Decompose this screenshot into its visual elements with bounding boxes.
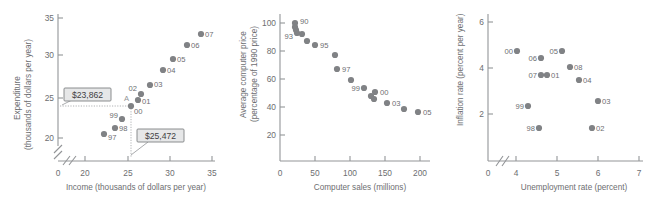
data-point-98 [112, 125, 118, 131]
data-point-label-01-p3: 01 [551, 71, 559, 80]
data-point-label-05-p3: 05 [550, 47, 558, 56]
x-tick-label-7-panel-3: 7 [637, 168, 642, 178]
data-point-label-03: 03 [154, 80, 162, 89]
x-tick-label-20-panel-1: 20 [80, 168, 90, 178]
data-point-label-90-p2: 90 [300, 17, 308, 26]
data-point-96 [332, 52, 338, 58]
data-point-label-99-p2: 99 [352, 84, 360, 93]
data-point-label-04: 04 [167, 66, 175, 75]
x-tick-label-0-panel-1: 0 [56, 168, 61, 178]
data-point-labels-panel-2: 90 93 95 97 99 00 03 05 [285, 17, 432, 117]
x-tick-label-50-panel-2: 50 [310, 168, 320, 178]
data-point-label-06: 06 [191, 41, 199, 50]
x-tick-label-25-panel-1: 25 [123, 168, 133, 178]
x-tick-label-4-panel-3: 4 [514, 168, 519, 178]
data-point-99 [119, 116, 125, 122]
data-point-97-p2 [334, 66, 340, 72]
data-point-03-p2 [384, 100, 390, 106]
callout-leader-income [131, 142, 148, 155]
data-point-03 [147, 82, 153, 88]
x-tick-label-35-panel-1: 35 [207, 168, 217, 178]
panel-inflation-vs-unemployment: Inflation rate (percent per year) 6 4 2 … [434, 0, 647, 199]
data-point-00-p3 [514, 48, 520, 54]
x-tick-label-100-panel-2: 100 [343, 168, 357, 178]
data-point-00b [372, 89, 378, 95]
y-tick-label-4-panel-3: 4 [479, 63, 484, 73]
data-point-04-p3 [576, 77, 582, 83]
y-tick-label-6-panel-3: 6 [479, 17, 484, 27]
data-point-label-06-p3: 06 [529, 54, 537, 63]
data-point-label-01: 01 [142, 97, 150, 106]
data-point-04 [160, 67, 166, 73]
data-point-label-08-p3: 08 [574, 63, 582, 72]
data-point-04-p2 [401, 106, 407, 112]
data-point-labels-panel-3: 00 05 06 08 07 01 04 03 99 98 02 [505, 47, 611, 133]
data-point-95 [312, 42, 318, 48]
data-point-label-04-p3: 04 [583, 76, 591, 85]
data-point-label-07-p3: 07 [529, 71, 537, 80]
panel-expenditure-vs-income: Expenditure (thousands of dollars per ye… [0, 0, 222, 199]
data-point-05-p3 [559, 48, 565, 54]
data-point-label-98-p3: 98 [527, 124, 535, 133]
y-axis-title-panel-2-line2: (percentage of 1990 price) [250, 26, 259, 122]
x-tick-label-0-panel-3: 0 [486, 168, 491, 178]
data-point-05-p2 [415, 109, 421, 115]
data-point-01 [135, 97, 141, 103]
x-axis-title-panel-1: Income (thousands of dollars per year) [66, 183, 206, 192]
data-points-panel-3 [514, 48, 601, 131]
data-point-06 [184, 42, 190, 48]
panel-2-plot: Average computer price (percentage of 19… [222, 0, 434, 199]
data-point-98-p2 [348, 77, 354, 83]
y-tick-label-40-panel-2: 40 [267, 102, 277, 112]
data-point-label-95-p2: 95 [320, 41, 328, 50]
y-axis-title-panel-1: Expenditure [13, 76, 22, 120]
x-tick-label-0-panel-2: 0 [278, 168, 283, 178]
data-point-label-02-p3: 02 [596, 124, 604, 133]
data-point-label-00: 00 [134, 107, 142, 116]
data-point-00-p2 [371, 96, 377, 102]
data-point-label-05-p2: 05 [423, 108, 431, 117]
data-point-label-07: 07 [205, 30, 213, 39]
x-axis-title-panel-2: Computer sales (millions) [314, 183, 407, 192]
x-tick-label-200-panel-2: 200 [413, 168, 427, 178]
y-tick-label-2-panel-3: 2 [479, 109, 484, 119]
data-point-98-p3 [536, 125, 542, 131]
data-point-94 [299, 31, 305, 37]
y-axis-title-panel-1-line2: (thousands of dollars per year) [24, 39, 33, 150]
panel-3-plot: Inflation rate (percent per year) 6 4 2 … [434, 0, 647, 199]
data-point-08-p3 [567, 64, 573, 70]
point-a-label: A [124, 94, 130, 103]
data-point-labels-panel-1: 97 98 99 00 01 02 03 04 05 06 07 [108, 30, 213, 142]
panel-computer-price-vs-sales: Average computer price (percentage of 19… [222, 0, 434, 199]
data-point-label-03-p2: 03 [392, 99, 400, 108]
data-point-07-p3 [538, 72, 544, 78]
x-tick-label-30-panel-1: 30 [165, 168, 175, 178]
data-point-94b [304, 38, 310, 44]
data-point-06-p3 [538, 55, 544, 61]
y-tick-label-100-panel-2: 100 [262, 18, 276, 28]
data-point-label-93-p2: 93 [285, 32, 293, 41]
y-tick-label-80-panel-2: 80 [267, 46, 277, 56]
y-axis-title-panel-2: Average computer price [239, 31, 248, 118]
data-point-07 [198, 31, 204, 37]
callout-text-expenditure: $23,862 [72, 90, 103, 100]
y-axis-break-panel-1 [54, 145, 62, 159]
data-point-label-97: 97 [108, 133, 116, 142]
y-tick-label-35-panel-1: 35 [45, 13, 55, 23]
x-tick-label-6-panel-3: 6 [596, 168, 601, 178]
y-tick-label-25-panel-1: 25 [45, 93, 55, 103]
data-point-label-02: 02 [129, 84, 137, 93]
data-point-02-p3 [589, 125, 595, 131]
data-point-label-97-p2: 97 [342, 65, 350, 74]
panel-1-plot: Expenditure (thousands of dollars per ye… [0, 0, 222, 199]
callout-text-income: $25,472 [145, 131, 176, 141]
x-tick-label-150-panel-2: 150 [378, 168, 392, 178]
y-tick-label-60-panel-2: 60 [267, 74, 277, 84]
data-point-05 [170, 56, 176, 62]
data-point-label-98: 98 [119, 124, 127, 133]
data-point-label-00-p3: 00 [505, 47, 513, 56]
y-tick-label-30-panel-1: 30 [45, 50, 55, 60]
x-axis-title-panel-3: Unemployment rate (percent) [521, 183, 628, 192]
data-point-label-00-p2: 00 [380, 88, 388, 97]
data-point-99-p3 [525, 103, 531, 109]
